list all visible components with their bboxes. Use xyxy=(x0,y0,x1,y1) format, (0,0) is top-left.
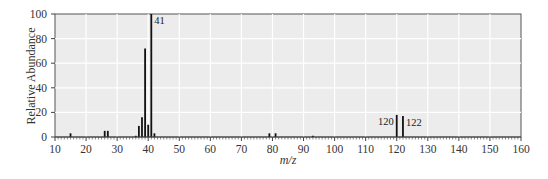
y-tick-label: 0 xyxy=(41,131,47,143)
x-tick-label: 90 xyxy=(298,143,310,155)
x-axis-title: m/z xyxy=(280,153,297,167)
plot-area xyxy=(55,14,521,137)
peak-label: 41 xyxy=(154,15,165,26)
y-tick-label: 100 xyxy=(30,8,48,20)
x-tick-label: 70 xyxy=(236,143,248,155)
y-axis-title: Relative Abundance xyxy=(24,28,38,125)
x-tick-label: 150 xyxy=(481,143,499,155)
x-tick-label: 20 xyxy=(80,143,92,155)
x-tick-label: 130 xyxy=(419,143,437,155)
x-tick-label: 80 xyxy=(267,143,279,155)
x-tick-label: 160 xyxy=(512,143,530,155)
x-tick-label: 40 xyxy=(142,143,154,155)
peak-label: 120 xyxy=(378,116,394,127)
x-tick-label: 140 xyxy=(450,143,468,155)
x-tick-label: 10 xyxy=(49,143,61,155)
x-tick-label: 110 xyxy=(357,143,374,155)
mass-spectrum-chart: 102030405060708090100110120130140150160 … xyxy=(0,0,548,179)
x-tick-label: 50 xyxy=(174,143,186,155)
x-tick-label: 120 xyxy=(388,143,406,155)
x-tick-label: 100 xyxy=(326,143,344,155)
x-tick-label: 30 xyxy=(111,143,123,155)
x-tick-label: 60 xyxy=(205,143,217,155)
peak-label: 122 xyxy=(406,117,422,128)
